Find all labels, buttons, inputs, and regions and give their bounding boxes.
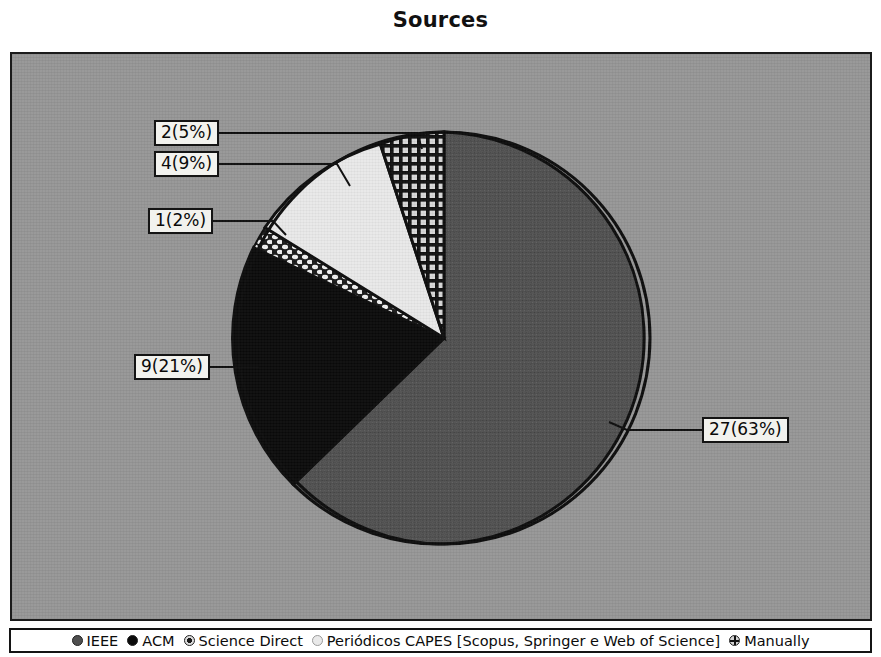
plot-area: 2(5%) 4(9%) 1(2%) 9(21%) 27(63%) — [10, 52, 872, 621]
legend-label-capes: Periódicos CAPES [Scopus, Springer e Web… — [327, 633, 720, 649]
data-label-manually: 2(5%) — [154, 120, 219, 146]
data-label-science-direct: 1(2%) — [148, 208, 213, 234]
legend-marker-ieee-icon — [72, 635, 83, 646]
legend-item-manually[interactable]: Manually — [729, 633, 809, 649]
legend-item-science-direct[interactable]: Science Direct — [184, 633, 303, 649]
legend: IEEE ACM Science Direct Periódicos CAPES… — [9, 628, 872, 653]
data-label-acm: 9(21%) — [134, 354, 210, 380]
legend-label-ieee: IEEE — [87, 633, 119, 649]
legend-marker-capes-icon — [312, 635, 323, 646]
pie-graphic — [12, 54, 870, 619]
legend-item-ieee[interactable]: IEEE — [72, 633, 119, 649]
legend-label-acm: ACM — [142, 633, 174, 649]
chart-title: Sources — [0, 8, 881, 32]
pie-chart-figure: Sources — [0, 0, 881, 657]
legend-item-acm[interactable]: ACM — [127, 633, 174, 649]
legend-label-science-direct: Science Direct — [199, 633, 303, 649]
legend-marker-acm-icon — [127, 635, 138, 646]
legend-label-manually: Manually — [744, 633, 809, 649]
legend-marker-science-direct-icon — [184, 635, 195, 646]
legend-item-capes[interactable]: Periódicos CAPES [Scopus, Springer e Web… — [312, 633, 720, 649]
legend-marker-manually-icon — [729, 635, 740, 646]
data-label-capes: 4(9%) — [154, 151, 219, 177]
data-label-ieee: 27(63%) — [702, 417, 789, 443]
